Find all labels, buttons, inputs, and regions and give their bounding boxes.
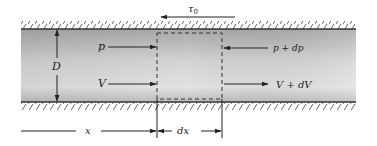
shear-stress-label: τ0 xyxy=(188,3,198,16)
pressure-out-label: p + dp xyxy=(273,43,304,53)
pipe-flow-diagram: τ0 D p V p + dp V + dV x dx xyxy=(0,0,377,146)
element-length-label: dx xyxy=(177,125,189,136)
top-wall xyxy=(21,21,356,29)
velocity-in-label: V xyxy=(98,77,107,90)
position-label: x xyxy=(85,125,91,136)
pressure-in-label: p xyxy=(98,40,105,53)
bottom-wall xyxy=(21,102,356,110)
fluid-region xyxy=(21,29,356,102)
velocity-out-label: V + dV xyxy=(276,79,313,90)
diameter-label: D xyxy=(51,60,61,73)
